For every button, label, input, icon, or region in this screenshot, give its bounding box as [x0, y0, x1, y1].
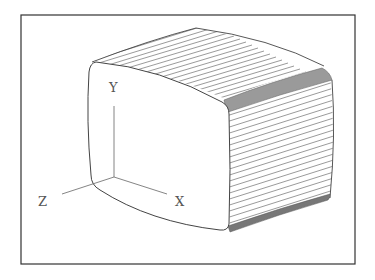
z-axis-label: Z — [38, 194, 47, 209]
box-diagram: Y X Z — [0, 0, 375, 280]
top-face-outline — [92, 28, 324, 66]
side-face-outline — [330, 80, 334, 198]
x-axis-label: X — [175, 194, 185, 209]
side-bottom-edge-band — [228, 194, 330, 232]
y-axis-label: Y — [108, 80, 118, 95]
